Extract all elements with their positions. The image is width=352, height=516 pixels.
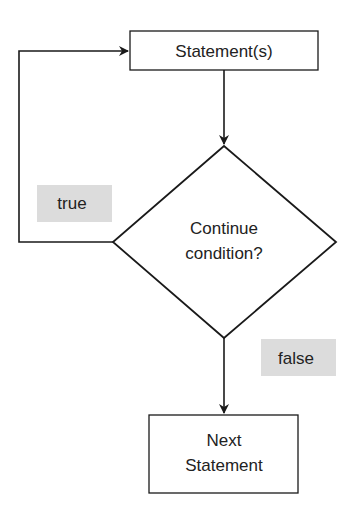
condition-label-line1: Continue [190,219,258,238]
condition-label-line2: condition? [185,244,263,263]
svg-text:false: false [278,349,314,368]
statements-label: Statement(s) [175,42,272,61]
next-label-line2: Statement [185,456,263,475]
flowchart-canvas: Statement(s) true Continue condition? fa… [0,0,352,516]
next-label-line1: Next [207,431,242,450]
false-label: false [261,339,336,376]
statements-node: Statement(s) [130,31,318,70]
condition-node: Continue condition? [113,146,336,338]
next-statement-node: Next Statement [149,415,298,493]
svg-text:true: true [57,194,86,213]
true-label: true [37,185,112,222]
